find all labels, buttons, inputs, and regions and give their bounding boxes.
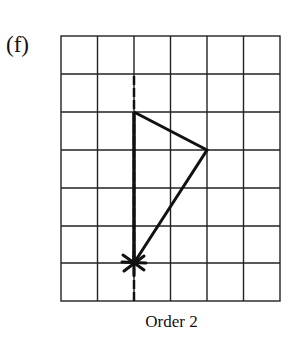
grid-diagram: [0, 0, 303, 345]
grid: [61, 36, 280, 301]
center-star-icon: [122, 252, 146, 275]
figure-caption: Order 2: [0, 313, 303, 330]
